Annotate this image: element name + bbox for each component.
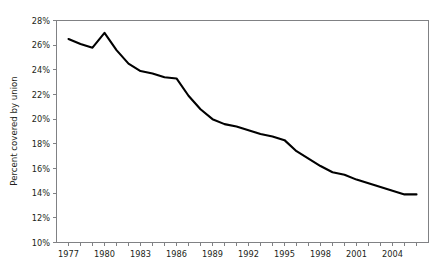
- y-tick-label: 22%: [32, 90, 50, 100]
- x-tick-label: 2001: [346, 249, 367, 259]
- y-tick-label: 18%: [32, 139, 50, 149]
- x-tick-label: 1983: [130, 249, 151, 259]
- y-tick-label: 16%: [32, 164, 50, 174]
- x-tick-label: 1989: [202, 249, 223, 259]
- y-tick-label: 28%: [32, 16, 50, 26]
- y-tick-label: 26%: [32, 40, 50, 50]
- x-tick-label: 1980: [94, 249, 115, 259]
- line-chart-plot: 28%26%24%22%20%18%16%14%12%10% 197719801…: [0, 0, 446, 271]
- chart-background: [0, 0, 446, 271]
- y-tick-label: 12%: [32, 213, 50, 223]
- x-tick-label: 1986: [166, 249, 187, 259]
- x-tick-label: 1992: [238, 249, 259, 259]
- y-axis-title: Percent covered by union: [9, 76, 19, 186]
- x-tick-label: 2004: [382, 249, 403, 259]
- y-tick-label: 10%: [32, 238, 50, 248]
- x-tick-label: 1998: [310, 249, 331, 259]
- chart-container: 28%26%24%22%20%18%16%14%12%10% 197719801…: [0, 0, 446, 271]
- y-tick-label: 14%: [32, 188, 50, 198]
- x-tick-label: 1977: [58, 249, 79, 259]
- y-tick-label: 20%: [32, 114, 50, 124]
- y-tick-label: 24%: [32, 65, 50, 75]
- x-tick-label: 1995: [274, 249, 295, 259]
